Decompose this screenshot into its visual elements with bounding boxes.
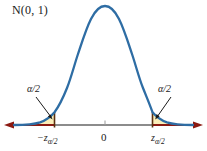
center-tick-label: 0	[101, 132, 107, 143]
distribution-label: N(0, 1)	[12, 4, 48, 16]
right-critical-value-subscript: α/2	[155, 137, 165, 146]
left-tail-area-label: α/2	[27, 84, 40, 94]
left-critical-value-base: −z	[37, 132, 48, 143]
left-critical-value-subscript: α/2	[48, 137, 58, 146]
distribution-plot	[0, 0, 207, 151]
left-critical-value-label: −zα/2	[37, 133, 57, 146]
normal-distribution-figure: N(0, 1) α/2 α/2 0 −zα/2 zα/2	[0, 0, 207, 151]
right-tail-area-label: α/2	[158, 84, 171, 94]
right-critical-value-label: zα/2	[151, 133, 165, 146]
normal-curve	[14, 6, 193, 125]
right-annotation-leader-line	[157, 97, 171, 117]
left-annotation-leader-line	[36, 97, 51, 117]
axis-arrow-right-icon	[193, 122, 203, 129]
axis-arrow-left-icon	[4, 122, 14, 129]
